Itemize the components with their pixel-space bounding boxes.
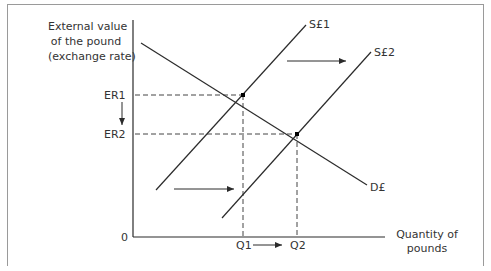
demand-curve-label: D£	[370, 181, 385, 194]
origin-label: 0	[121, 231, 128, 244]
y-axis-label: External value of the pound (exchange ra…	[48, 19, 124, 64]
er1-label: ER1	[104, 89, 126, 102]
equilibrium-point-2	[295, 132, 299, 136]
y-axis-label-line-3: (exchange rate)	[48, 49, 124, 64]
demand-curve	[141, 43, 367, 185]
x-axis-label-line-2: pounds	[392, 242, 462, 256]
x-axis-label-line-1: Quantity of	[392, 228, 462, 242]
x-axis-label: Quantity of pounds	[392, 228, 462, 256]
y-axis-label-line-1: External value	[48, 19, 124, 34]
supply-curve-1	[156, 25, 306, 190]
q1-label: Q1	[236, 239, 252, 252]
equilibrium-point-1	[241, 93, 245, 97]
supply-curve-2-label: S£2	[374, 46, 395, 59]
y-axis-label-line-2: of the pound	[48, 34, 124, 49]
er2-label: ER2	[104, 128, 126, 141]
supply-curve-1-label: S£1	[309, 18, 330, 31]
q2-label: Q2	[290, 239, 306, 252]
